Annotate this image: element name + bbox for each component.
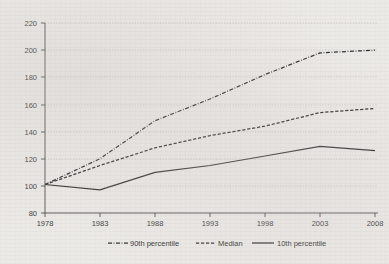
y-axis-labels: 220 200 180 160 140 120 100 80 bbox=[24, 19, 37, 218]
y-tick-marks bbox=[41, 23, 45, 213]
y-tick-label-220: 220 bbox=[24, 19, 37, 28]
y-tick-label-100: 100 bbox=[24, 182, 37, 191]
x-axis-labels: 1978 1983 1988 1993 1998 2003 2008 bbox=[37, 219, 384, 228]
line-chart: 220 200 180 160 140 120 100 80 1978 1983… bbox=[0, 0, 389, 264]
y-tick-label-140: 140 bbox=[24, 128, 37, 137]
legend-label-10th-percentile: 10th percentile bbox=[277, 239, 326, 248]
y-tick-label-160: 160 bbox=[24, 101, 37, 110]
chart-container: 220 200 180 160 140 120 100 80 1978 1983… bbox=[0, 0, 389, 264]
legend-label-median: Median bbox=[218, 239, 243, 248]
gridlines bbox=[45, 23, 378, 186]
series-line-90th-percentile bbox=[45, 50, 375, 184]
x-tick-label-2008: 2008 bbox=[367, 219, 384, 228]
y-tick-label-80: 80 bbox=[29, 209, 37, 218]
x-tick-label-1998: 1998 bbox=[257, 219, 274, 228]
y-tick-label-120: 120 bbox=[24, 155, 37, 164]
series-line-10th-percentile bbox=[45, 147, 375, 190]
x-tick-label-1988: 1988 bbox=[147, 219, 164, 228]
y-tick-label-200: 200 bbox=[24, 46, 37, 55]
legend-label-90th-percentile: 90th percentile bbox=[130, 239, 179, 248]
data-series bbox=[45, 50, 375, 190]
x-tick-marks bbox=[45, 213, 375, 217]
y-tick-label-180: 180 bbox=[24, 73, 37, 82]
x-tick-label-2003: 2003 bbox=[312, 219, 329, 228]
chart-legend: 90th percentile Median 10th percentile bbox=[108, 239, 326, 248]
x-tick-label-1993: 1993 bbox=[202, 219, 219, 228]
x-tick-label-1983: 1983 bbox=[92, 219, 109, 228]
x-tick-label-1978: 1978 bbox=[37, 219, 54, 228]
